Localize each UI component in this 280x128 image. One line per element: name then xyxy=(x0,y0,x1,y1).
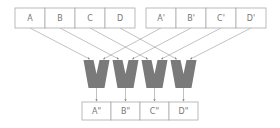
input-left-cell: A xyxy=(15,8,45,28)
input-left-cell-label: A xyxy=(27,14,33,23)
input-left-cell: C xyxy=(75,8,105,28)
input-left-cell: D xyxy=(105,8,135,28)
merge-unit-c xyxy=(142,60,168,88)
input-left-cell-label: D xyxy=(117,14,123,23)
connector-right-1 xyxy=(133,28,192,59)
output-cell-label: D" xyxy=(179,107,189,116)
input-right-cell: B' xyxy=(176,8,206,28)
merge-unit-b xyxy=(113,60,139,88)
output-cell: C" xyxy=(140,102,169,120)
output-cell-label: B" xyxy=(121,107,130,116)
merge-unit-a xyxy=(84,60,110,88)
input-right-cell: A' xyxy=(146,8,176,28)
input-right-cell-label: D' xyxy=(247,14,255,23)
input-right-cell: D' xyxy=(236,8,266,28)
connector-lines xyxy=(30,28,251,101)
input-right-cell: C' xyxy=(206,8,236,28)
input-row-right: A'B'C'D' xyxy=(146,8,266,28)
output-cell: D" xyxy=(169,102,198,120)
connector-right-0 xyxy=(104,28,162,59)
input-right-cell-label: A' xyxy=(157,14,165,23)
merge-units xyxy=(84,60,197,88)
input-left-cell: B xyxy=(45,8,75,28)
input-left-cell-label: C xyxy=(87,14,93,23)
output-cell: A" xyxy=(82,102,111,120)
input-right-cell-label: C' xyxy=(217,14,225,23)
connector-left-1 xyxy=(60,28,119,59)
input-row-left: ABCD xyxy=(15,8,135,28)
connector-right-2 xyxy=(162,28,222,59)
merge-unit-d xyxy=(171,60,197,88)
output-cell-label: A" xyxy=(92,107,101,116)
input-right-cell-label: B' xyxy=(187,14,195,23)
merge-diagram: ABCD A'B'C'D' A"B"C"D" xyxy=(0,0,280,128)
output-cell: B" xyxy=(111,102,140,120)
output-row: A"B"C"D" xyxy=(82,102,198,120)
connector-left-0 xyxy=(30,28,90,59)
connector-left-2 xyxy=(90,28,148,59)
connector-right-3 xyxy=(191,28,252,59)
connector-left-3 xyxy=(120,28,177,59)
output-cell-label: C" xyxy=(150,107,159,116)
input-left-cell-label: B xyxy=(57,14,63,23)
